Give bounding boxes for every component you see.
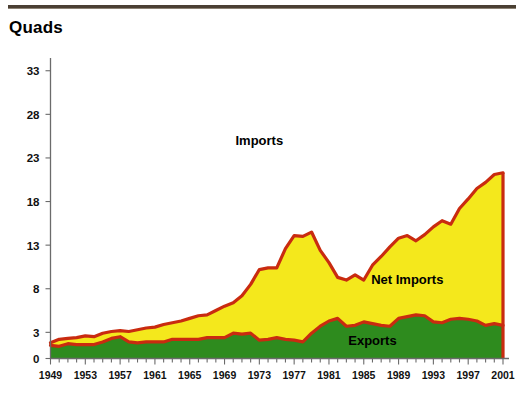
y-axis-label: 28	[27, 109, 40, 121]
y-axis-label: 8	[33, 283, 40, 295]
stacked-area-chart: 0381318232833 19491953195719611965196919…	[0, 0, 524, 405]
y-axis-label: 23	[27, 152, 40, 164]
imports-series-label: Imports	[236, 133, 284, 148]
x-axis-label: 1981	[317, 369, 341, 381]
y-axis-label: 13	[27, 240, 40, 252]
x-axis-label: 1961	[143, 369, 167, 381]
net-imports-area	[51, 173, 504, 347]
y-axis-label: 33	[27, 65, 40, 77]
x-axis-label: 1953	[74, 369, 98, 381]
x-axis-label: 1969	[213, 369, 237, 381]
x-axis-label: 1949	[39, 369, 63, 381]
x-axis-tick-labels: 1949195319571961196519691973197719811985…	[39, 369, 515, 381]
x-axis-label: 1993	[422, 369, 446, 381]
x-axis-label: 1957	[108, 369, 132, 381]
chart-page: Quads 0381318232833 19491953195719611965…	[0, 0, 524, 405]
y-axis-label: 0	[33, 353, 39, 365]
x-axis-label: 1973	[248, 369, 272, 381]
x-axis-label: 1977	[282, 369, 306, 381]
x-axis-label: 1997	[457, 369, 481, 381]
y-axis-tick-labels: 0381318232833	[27, 65, 40, 365]
x-axis-label: 1985	[352, 369, 376, 381]
x-axis-label: 1989	[387, 369, 411, 381]
chart-areas	[51, 173, 504, 359]
exports-series-label: Exports	[348, 333, 396, 348]
x-axis-label: 2001	[491, 369, 515, 381]
x-axis-label: 1965	[178, 369, 202, 381]
y-axis-label: 3	[33, 327, 39, 339]
net-imports-series-label: Net Imports	[371, 272, 443, 287]
y-axis-label: 18	[27, 196, 40, 208]
